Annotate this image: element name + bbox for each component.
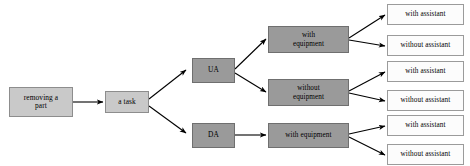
edge-equipment1-to-leaf1	[349, 15, 385, 38]
edge-ua-to-without-equipment	[235, 73, 266, 92]
node-leaf-with-assistant-3[interactable]: with assistant	[387, 115, 464, 136]
node-leaf-without-assistant-1[interactable]: without assistant	[387, 35, 464, 56]
edge-equipment2-to-leaf4	[349, 93, 385, 101]
node-ua[interactable]: UA	[192, 58, 235, 83]
node-leaf-with-assistant-1[interactable]: with assistant	[387, 4, 464, 25]
node-without-equipment-ua[interactable]: without equipment	[268, 79, 349, 106]
edge-equipment3-to-leaf6	[349, 137, 385, 155]
edge-ua-to-with-equipment	[235, 39, 266, 69]
node-with-equipment-da[interactable]: with equipment	[268, 123, 349, 148]
tree-diagram: removing a part a task UA DA with equipm…	[0, 0, 470, 166]
edge-task-to-ua	[149, 70, 186, 99]
edge-equipment1-to-leaf2	[349, 40, 385, 46]
node-leaf-without-assistant-2[interactable]: without assistant	[387, 90, 464, 111]
node-removing-a-part[interactable]: removing a part	[9, 87, 73, 117]
edge-equipment3-to-leaf5	[349, 126, 385, 134]
node-da[interactable]: DA	[192, 123, 235, 148]
node-with-equipment-ua[interactable]: with equipment	[268, 26, 349, 53]
node-leaf-with-assistant-2[interactable]: with assistant	[387, 61, 464, 82]
edge-task-to-da	[149, 106, 186, 133]
node-leaf-without-assistant-3[interactable]: without assistant	[387, 144, 464, 165]
edge-equipment2-to-leaf3	[349, 72, 385, 91]
node-a-task[interactable]: a task	[105, 91, 149, 113]
